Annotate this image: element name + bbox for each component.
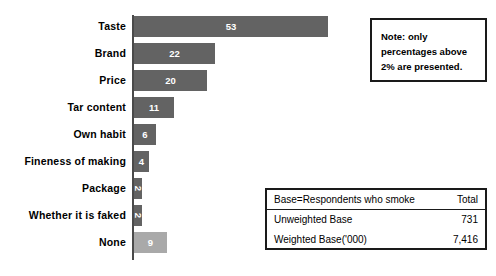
category-label: Whether it is faked (29, 205, 126, 226)
table-row: Unweighted Base 731 (267, 210, 485, 230)
chart-row: Tar content 11 (0, 97, 340, 118)
bar: 9 (134, 232, 167, 253)
note-line: 2% are presented. (381, 59, 485, 74)
table-cell-value: 7,416 (453, 230, 478, 250)
bar: 22 (134, 43, 215, 64)
table-row: Weighted Base('000) 7,416 (267, 230, 485, 250)
chart-row: Fineness of making 4 (0, 151, 340, 172)
chart-row: Brand 22 (0, 43, 340, 64)
table-header-value: Total (457, 190, 478, 209)
note-line: percentages above (381, 44, 485, 59)
chart-row: Taste 53 (0, 16, 340, 37)
category-label: Price (99, 70, 126, 91)
bar: 2 (134, 205, 142, 226)
table-cell-label: Weighted Base('000) (274, 230, 367, 250)
note-box: Note: only percentages above 2% are pres… (370, 18, 487, 82)
bar-value-label: 2 (128, 186, 149, 191)
table-header-label: Base=Respondents who smoke (274, 190, 415, 209)
bar-value-label: 6 (142, 124, 147, 145)
table-cell-value: 731 (461, 210, 478, 230)
category-label: Taste (98, 16, 126, 37)
category-label: Brand (95, 43, 126, 64)
category-label: None (99, 232, 126, 253)
bar-value-label: 4 (139, 151, 144, 172)
bar: 11 (134, 97, 174, 118)
category-label: Own habit (73, 124, 126, 145)
category-label: Fineness of making (24, 151, 126, 172)
base-table: Base=Respondents who smoke Total Unweigh… (265, 188, 487, 250)
bar: 53 (134, 16, 328, 37)
bar: 2 (134, 178, 142, 199)
bar-value-label: 20 (165, 70, 176, 91)
bar-value-label: 11 (149, 97, 159, 118)
bar: 4 (134, 151, 149, 172)
chart-row: Own habit 6 (0, 124, 340, 145)
bar: 20 (134, 70, 207, 91)
table-cell-label: Unweighted Base (274, 210, 352, 230)
category-label: Package (82, 178, 126, 199)
bar-value-label: 53 (226, 16, 237, 37)
bar: 6 (134, 124, 156, 145)
category-label: Tar content (67, 97, 126, 118)
table-header-row: Base=Respondents who smoke Total (267, 190, 485, 210)
note-line: Note: only (381, 29, 485, 44)
chart-row: Price 20 (0, 70, 340, 91)
bar-value-label: 2 (128, 213, 149, 218)
bar-value-label: 22 (169, 43, 180, 64)
bar-value-label: 9 (148, 232, 153, 253)
